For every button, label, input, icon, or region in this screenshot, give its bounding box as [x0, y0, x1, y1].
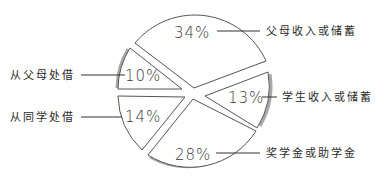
- pct-10: 10%: [125, 67, 161, 85]
- label-borrow-parents: 从父母处借: [10, 69, 75, 82]
- label-scholarship: 奖学金或助学金: [266, 146, 357, 160]
- pct-34: 34%: [174, 24, 210, 42]
- pct-28: 28%: [175, 146, 211, 164]
- label-student-income: 学生收入或储蓄: [282, 90, 373, 104]
- label-borrow-classmates: 从同学处借: [10, 110, 75, 124]
- pct-13: 13%: [228, 89, 264, 107]
- pct-14: 14%: [125, 108, 161, 126]
- pie-chart: 34% 13% 28% 14% 10% 父母收入或储蓄 学生收入或储蓄 奖学金或…: [0, 0, 383, 183]
- label-parents-income: 父母收入或储蓄: [266, 24, 357, 38]
